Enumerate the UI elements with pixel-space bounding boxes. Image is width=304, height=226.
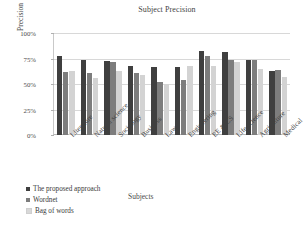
- legend-swatch-icon: [26, 198, 30, 202]
- chart-legend: The proposed approachWordnetBag of words: [26, 183, 100, 216]
- bar-group: [54, 33, 78, 135]
- chart-title: Subject Precision: [0, 5, 304, 14]
- bar: [187, 66, 192, 135]
- legend-item[interactable]: Bag of words: [26, 205, 100, 216]
- y-axis-tick-label: 100%: [0, 30, 36, 37]
- x-axis-title: Subjects: [128, 192, 153, 201]
- legend-item[interactable]: Wordnet: [26, 194, 100, 205]
- bar: [258, 69, 263, 135]
- legend-item[interactable]: The proposed approach: [26, 183, 100, 194]
- bar-group: [172, 33, 196, 135]
- legend-swatch-icon: [26, 208, 32, 214]
- bar: [93, 78, 98, 135]
- y-axis-tick-label: 75%: [0, 55, 36, 62]
- legend-swatch-icon: [26, 187, 30, 191]
- legend-label: The proposed approach: [33, 185, 100, 193]
- bar: [181, 80, 186, 135]
- y-axis-tick-label: 0%: [0, 132, 36, 139]
- bar: [69, 71, 74, 135]
- bar: [175, 67, 180, 135]
- bar: [157, 82, 162, 135]
- bar: [282, 77, 287, 135]
- legend-label: Bag of words: [35, 207, 74, 215]
- y-axis-title: Precision: [16, 0, 25, 52]
- y-axis-tick-label: 50%: [0, 81, 36, 88]
- legend-label: Wordnet: [33, 196, 58, 204]
- x-axis-labels: LiteratureNatural scienceSociologyBusine…: [54, 136, 290, 137]
- bar: [57, 56, 62, 135]
- bar: [140, 75, 145, 135]
- chart-container: Subject Precision Precision 0%25%50%75%1…: [0, 0, 304, 226]
- bar: [234, 62, 239, 135]
- bar: [116, 71, 121, 135]
- y-axis-tick-label: 25%: [0, 106, 36, 113]
- bar: [63, 72, 68, 135]
- bar: [211, 66, 216, 135]
